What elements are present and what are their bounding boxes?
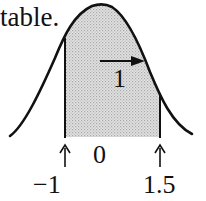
arrow-up-icon-left: [60, 145, 70, 167]
left-bound-label: −1: [33, 172, 61, 198]
arrow-up-icon-right: [155, 145, 165, 167]
center-label: 0: [93, 142, 106, 168]
caption-text: table.: [0, 4, 59, 31]
normal-curve-figure: table. 1 0 −1 1.5: [0, 0, 206, 201]
right-bound-label: 1.5: [143, 172, 176, 198]
width-label: 1: [113, 66, 126, 92]
